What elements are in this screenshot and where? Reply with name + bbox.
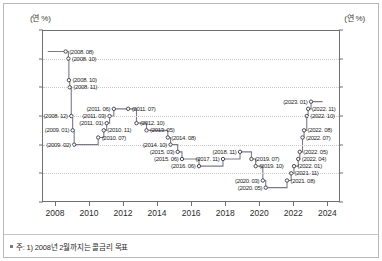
data-point-marker [176, 150, 179, 153]
data-point-marker [197, 164, 200, 167]
x-axis-tick-label: 2012 [114, 208, 133, 218]
x-axis-tick-mark [225, 202, 226, 206]
data-point-label: (2016. 06) [171, 163, 195, 169]
footnote: 주: 1) 2008년 2월까지는 콜금리 목표 [10, 241, 128, 252]
data-point-label: (2022. 01) [298, 163, 322, 169]
data-point-label: (2008. 11) [73, 84, 97, 90]
data-point-label: (2011. 03) [82, 113, 106, 119]
data-point-marker [64, 50, 67, 53]
x-axis-tick-label: 2018 [216, 208, 235, 218]
x-axis-tick-label: 2016 [182, 208, 201, 218]
data-point-label: (2020. 03) [235, 178, 259, 184]
footnote-text: 주: 1) 2008년 2월까지는 콜금리 목표 [16, 241, 128, 252]
data-point-label: (2015. 06) [154, 156, 178, 162]
data-point-marker [145, 129, 148, 132]
y-gridline [43, 30, 339, 31]
data-point-marker [261, 179, 264, 182]
x-axis-tick-label: 2022 [284, 208, 303, 218]
data-point-label: (2022. 07) [306, 135, 330, 141]
data-point-label: (2022. 11) [312, 106, 336, 112]
data-point-label: (2011. 06) [86, 106, 110, 112]
x-axis-tick-mark [89, 202, 90, 206]
data-point-marker [135, 121, 138, 124]
data-point-marker [166, 136, 169, 139]
y-axis-tick-mark [339, 202, 343, 203]
data-point-marker [302, 129, 305, 132]
y-axis-tick-mark [339, 30, 343, 31]
x-axis-tick-mark [123, 202, 124, 206]
data-point-label: (2010. 07) [102, 135, 126, 141]
y-axis-unit-left: (연 %) [30, 12, 51, 23]
x-axis-tick-mark [157, 202, 158, 206]
data-point-label: (2011. 07) [132, 106, 156, 112]
data-point-label: (2022. 10) [310, 113, 334, 119]
data-point-marker [112, 107, 115, 110]
x-axis-tick-label: 2014 [148, 208, 167, 218]
y-axis-tick-mark [39, 144, 43, 145]
data-point-label: (2012. 10) [140, 120, 164, 126]
y-axis-tick-mark [339, 58, 343, 59]
data-point-marker [254, 164, 257, 167]
data-point-marker [105, 121, 108, 124]
y-axis-tick-mark [339, 116, 343, 117]
data-point-label: (2021. 08) [291, 178, 315, 184]
data-point-marker [102, 129, 105, 132]
data-point-marker [297, 157, 300, 160]
data-point-label: (2014. 08) [171, 135, 195, 141]
data-point-label: (2009. 02) [46, 142, 70, 148]
y-axis-tick-mark [339, 87, 343, 88]
data-point-label: (2021. 11) [295, 170, 319, 176]
data-point-marker [126, 107, 129, 110]
data-point-marker [264, 186, 267, 189]
data-point-label: (2008. 10) [72, 77, 96, 83]
data-point-label: (2019. 07) [255, 156, 279, 162]
data-point-label: (2008. 10) [72, 56, 96, 62]
x-axis-tick-label: 2020 [250, 208, 269, 218]
y-axis-unit-right: (연 %) [344, 12, 365, 23]
data-point-marker [306, 107, 309, 110]
data-point-label: (2023. 01) [283, 99, 307, 105]
data-point-label: (2010. 11) [107, 127, 131, 133]
x-axis-tick-label: 2024 [318, 208, 337, 218]
data-point-label: (2015. 03) [150, 149, 174, 155]
data-point-marker [309, 100, 312, 103]
data-point-marker [301, 136, 304, 139]
data-point-label: (2009. 01) [45, 127, 69, 133]
x-axis-tick-label: 2010 [80, 208, 99, 218]
data-point-label: (2022. 05) [303, 149, 327, 155]
chart-figure: (연 %) (연 %) 6.06.05.05.04.04.03.03.02.02… [0, 0, 382, 261]
data-point-marker [292, 164, 295, 167]
data-point-label: (2017. 11) [196, 156, 220, 162]
y-axis-tick-mark [39, 202, 43, 203]
footnote-bullet-icon [10, 245, 13, 248]
x-axis-tick-mark [293, 202, 294, 206]
data-point-label: (2019. 10) [259, 163, 283, 169]
data-point-label: (2008. 12) [43, 113, 67, 119]
data-point-marker [238, 150, 241, 153]
data-point-label: (2022. 08) [308, 127, 332, 133]
y-axis-tick-mark [39, 30, 43, 31]
data-point-label: (2013. 05) [150, 127, 174, 133]
x-axis-tick-mark [327, 202, 328, 206]
data-point-label: (2022. 04) [302, 156, 326, 162]
x-axis-tick-mark [191, 202, 192, 206]
data-point-marker [67, 78, 70, 81]
data-point-marker [250, 157, 253, 160]
data-point-label: (2011. 01) [79, 120, 103, 126]
data-point-marker [71, 129, 74, 132]
data-point-label: (2008. 08) [69, 49, 93, 55]
footnote-divider [4, 234, 378, 235]
data-point-label: (2014. 10) [143, 142, 167, 148]
y-axis-tick-mark [39, 116, 43, 117]
data-point-marker [96, 136, 99, 139]
y-axis-tick-mark [39, 58, 43, 59]
data-point-label: (2018. 11) [213, 149, 237, 155]
y-axis-tick-mark [39, 173, 43, 174]
data-point-label: (2020. 05) [238, 185, 262, 191]
plot-area: 6.06.05.05.04.04.03.03.02.02.01.01.00.00… [42, 30, 340, 202]
y-axis-tick-mark [339, 173, 343, 174]
data-point-marker [298, 150, 301, 153]
x-axis-tick-mark [259, 202, 260, 206]
data-point-marker [285, 179, 288, 182]
y-gridline [43, 145, 339, 146]
